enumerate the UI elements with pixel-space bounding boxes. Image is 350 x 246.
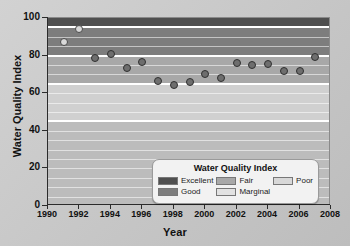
band-good [48, 27, 329, 55]
legend-item-good: Good [158, 187, 216, 196]
band-separator [48, 55, 329, 57]
y-tick [42, 130, 47, 131]
data-point [170, 81, 178, 89]
x-tick-label: 2008 [313, 209, 347, 219]
legend-label: Marginal [239, 187, 270, 196]
x-tick-label: 1992 [61, 209, 95, 219]
legend-label: Poor [296, 176, 313, 185]
gridline [48, 37, 329, 38]
x-axis-line [47, 204, 330, 205]
y-tick [42, 92, 47, 93]
y-axis-line [47, 17, 48, 205]
legend-swatch-good [158, 188, 178, 196]
x-tick-label: 2002 [219, 209, 253, 219]
x-tick-label: 2004 [250, 209, 284, 219]
legend-label: Excellent [181, 176, 213, 185]
gridline [48, 65, 329, 66]
chart-container: 0204060801001990199219941996199820002002… [0, 0, 350, 246]
y-tick [42, 55, 47, 56]
legend: Water Quality Index ExcellentGoodFairMar… [152, 159, 319, 204]
legend-swatch-marginal [216, 188, 236, 196]
data-point [280, 67, 288, 75]
data-point [154, 77, 162, 85]
legend-title: Water Quality Index [158, 163, 313, 174]
legend-column: FairMarginal [216, 176, 273, 196]
band-separator [48, 120, 329, 122]
gridline [48, 74, 329, 75]
x-tick-label: 1996 [124, 209, 158, 219]
legend-swatch-fair [216, 177, 236, 185]
gridline [48, 93, 329, 94]
x-tick-label: 2006 [282, 209, 316, 219]
legend-items: ExcellentGoodFairMarginalPoor [158, 176, 313, 196]
x-tick-label: 1998 [156, 209, 190, 219]
gridline [48, 103, 329, 104]
y-tick [42, 17, 47, 18]
data-point [311, 53, 319, 61]
y-tick [42, 167, 47, 168]
data-point [186, 78, 194, 86]
x-tick-label: 2000 [187, 209, 221, 219]
data-point [107, 50, 115, 58]
gridline [48, 150, 329, 151]
legend-column: ExcellentGood [158, 176, 216, 196]
legend-column: Poor [273, 176, 313, 196]
legend-item-marginal: Marginal [216, 187, 273, 196]
x-tick-label: 1994 [93, 209, 127, 219]
data-point [296, 67, 304, 75]
gridline [48, 131, 329, 132]
band-separator [48, 26, 329, 28]
legend-label: Fair [239, 176, 253, 185]
gridline [48, 46, 329, 47]
legend-swatch-excellent [158, 177, 178, 185]
data-point [123, 64, 131, 72]
y-axis-title: Water Quality Index [11, 21, 23, 191]
legend-item-fair: Fair [216, 176, 273, 185]
x-axis-title: Year [0, 226, 350, 238]
gridline [48, 112, 329, 113]
data-point [233, 59, 241, 67]
legend-swatch-poor [273, 177, 293, 185]
legend-item-excellent: Excellent [158, 176, 216, 185]
x-tick-label: 1990 [30, 209, 64, 219]
legend-item-poor: Poor [273, 176, 313, 185]
gridline [48, 140, 329, 141]
legend-label: Good [181, 187, 201, 196]
